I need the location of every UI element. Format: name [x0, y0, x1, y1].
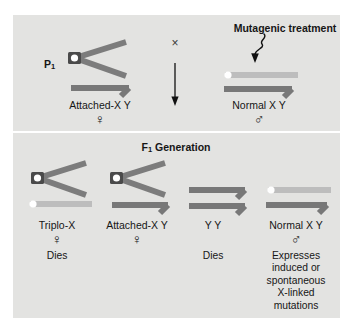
p1-paternal-sex-symbol: ♂ — [254, 112, 265, 126]
fate-line-2: spontaneous — [267, 275, 326, 286]
f1-offspring-sex-symbol-attached-x-y: ♀ — [132, 232, 143, 246]
f1-offspring-sex-symbol-triplo-x: ♀ — [52, 232, 63, 246]
p1-maternal-sex-symbol: ♀ — [95, 112, 106, 126]
f1-generation-heading: F1 Generation — [142, 141, 211, 156]
fate-line-0: Expresses — [272, 250, 320, 261]
f1-offspring-karyotype-label-triplo-x: Triplo-X — [39, 219, 75, 231]
cross-symbol: × — [171, 37, 178, 49]
fate-line-1: induced or — [272, 262, 320, 273]
f1-offspring-fate-triplo-x: Dies — [47, 250, 68, 262]
f1-offspring-karyotype-label-normal-x-y: Normal X Y — [269, 219, 323, 231]
genetics-diagram: P1 × Mutagenic treatment Attached-X Y ♀ … — [0, 0, 349, 329]
p1-maternal-karyotype-label: Attached-X Y — [69, 99, 131, 111]
mutagenic-treatment-label: Mutagenic treatment — [234, 22, 337, 34]
fate-line-4: mutations — [274, 300, 319, 311]
fate-line-3: X-linked — [277, 287, 314, 298]
f1-offspring-sex-symbol-normal-x-y: ♂ — [291, 232, 302, 246]
f1-offspring-karyotype-label-attached-x-y: Attached-X Y — [106, 219, 168, 231]
f1-offspring-karyotype-label-yy: Y Y — [205, 219, 222, 231]
p1-generation-label: P1 — [44, 58, 55, 73]
f1-offspring-fate-yy: Dies — [203, 250, 224, 262]
f1-offspring-fate-normal-x-y: Expressesinduced orspontaneousX-linkedmu… — [255, 250, 337, 312]
p1-paternal-karyotype-label: Normal X Y — [232, 99, 286, 111]
